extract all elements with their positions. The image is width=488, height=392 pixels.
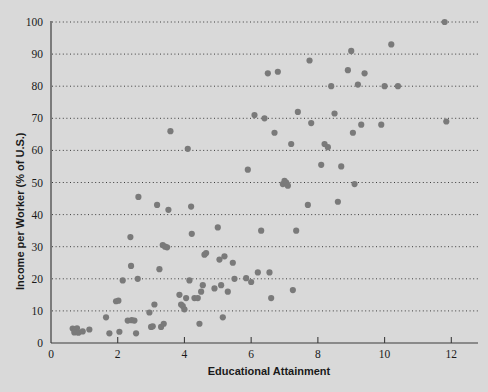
- data-point: [218, 282, 224, 288]
- data-point: [243, 275, 249, 281]
- y-tick-label: 30: [32, 241, 44, 253]
- data-point: [361, 70, 367, 76]
- data-point: [350, 130, 356, 136]
- data-point: [86, 326, 92, 332]
- data-point: [200, 282, 206, 288]
- y-tick-label: 40: [32, 209, 44, 221]
- data-point: [161, 321, 167, 327]
- data-point: [215, 224, 221, 230]
- data-point: [220, 314, 226, 320]
- x-tick-label: 12: [446, 348, 458, 360]
- data-point: [146, 309, 152, 315]
- data-point: [251, 112, 257, 118]
- data-point: [381, 83, 387, 89]
- data-point: [325, 144, 331, 150]
- data-point: [198, 289, 204, 295]
- data-point: [165, 207, 171, 213]
- data-point: [275, 69, 281, 75]
- data-point: [221, 253, 227, 259]
- data-point: [355, 81, 361, 87]
- x-tick-label: 6: [248, 348, 254, 360]
- data-point: [150, 323, 156, 329]
- x-tick-label: 8: [315, 348, 321, 360]
- y-tick-label: 70: [32, 112, 44, 124]
- data-point: [318, 162, 324, 168]
- data-point: [80, 328, 86, 334]
- data-point: [348, 48, 354, 54]
- y-tick-label: 20: [32, 273, 44, 285]
- data-point: [128, 263, 134, 269]
- y-tick-label: 0: [37, 337, 43, 349]
- data-point: [308, 120, 314, 126]
- data-point: [103, 314, 109, 320]
- data-point: [378, 122, 384, 128]
- data-point: [231, 276, 237, 282]
- y-tick-label: 80: [32, 80, 44, 92]
- y-tick-label: 100: [26, 16, 44, 28]
- data-point: [196, 321, 202, 327]
- data-point: [156, 266, 162, 272]
- data-point: [345, 67, 351, 73]
- data-point: [443, 118, 449, 124]
- data-point: [328, 83, 334, 89]
- data-point: [258, 228, 264, 234]
- data-point: [181, 306, 187, 312]
- y-tick-label: 10: [32, 305, 44, 317]
- data-point: [288, 141, 294, 147]
- data-point: [388, 41, 394, 47]
- data-point: [131, 317, 137, 323]
- plot-area: 0102030405060708090100024681012: [0, 0, 488, 392]
- data-point: [151, 301, 157, 307]
- data-point: [290, 287, 296, 293]
- data-point: [293, 228, 299, 234]
- data-point: [295, 109, 301, 115]
- data-point: [188, 203, 194, 209]
- data-point: [225, 289, 231, 295]
- data-point: [306, 57, 312, 63]
- x-tick-label: 4: [182, 348, 188, 360]
- data-point: [127, 234, 133, 240]
- data-point: [351, 181, 357, 187]
- data-point: [185, 146, 191, 152]
- data-point: [442, 19, 448, 25]
- data-point: [305, 202, 311, 208]
- data-point: [135, 276, 141, 282]
- data-point: [395, 83, 401, 89]
- data-point: [268, 295, 274, 301]
- x-axis-label: Educational Attainment: [0, 365, 488, 377]
- x-tick-label: 0: [48, 348, 54, 360]
- data-point: [266, 269, 272, 275]
- y-tick-label: 90: [32, 48, 44, 60]
- y-axis-label: Income per Worker (% of U.S.): [14, 60, 26, 290]
- data-point: [255, 269, 261, 275]
- data-point: [261, 115, 267, 121]
- data-point: [203, 250, 209, 256]
- data-point: [116, 329, 122, 335]
- data-point: [271, 130, 277, 136]
- data-point: [189, 231, 195, 237]
- data-point: [338, 163, 344, 169]
- data-point: [120, 277, 126, 283]
- data-point: [154, 202, 160, 208]
- data-point: [164, 244, 170, 250]
- data-point: [133, 330, 139, 336]
- data-point: [265, 70, 271, 76]
- data-point: [245, 167, 251, 173]
- data-point: [186, 277, 192, 283]
- data-point: [248, 279, 254, 285]
- data-point: [176, 292, 182, 298]
- scatter-plot-figure: 0102030405060708090100024681012 Income p…: [0, 0, 488, 392]
- data-point: [183, 295, 189, 301]
- data-point: [135, 194, 141, 200]
- data-point: [335, 199, 341, 205]
- y-tick-label: 60: [32, 144, 44, 156]
- data-point: [285, 183, 291, 189]
- data-point: [230, 260, 236, 266]
- data-point: [195, 295, 201, 301]
- data-point: [106, 330, 112, 336]
- data-point: [167, 128, 173, 134]
- data-point: [331, 110, 337, 116]
- data-point: [358, 122, 364, 128]
- data-point: [211, 285, 217, 291]
- y-tick-label: 50: [32, 177, 44, 189]
